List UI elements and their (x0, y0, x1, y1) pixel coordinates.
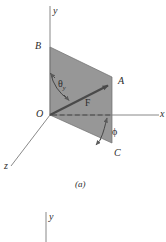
point-label-c: C (114, 148, 121, 158)
figure-caption-a: (a) (75, 180, 86, 189)
point-label-o: O (36, 109, 43, 119)
force-plane-shaded-region (50, 47, 112, 143)
theta-subscript: y (63, 84, 66, 91)
z-axis-label: z (4, 161, 8, 171)
phi-angle-label: ϕ (112, 127, 117, 137)
y-axis-label: y (53, 6, 57, 16)
x-axis-label: x (160, 109, 164, 119)
figure-canvas (0, 0, 166, 242)
point-label-a: A (118, 76, 124, 86)
force-vector-label: F (85, 99, 90, 109)
panel-b-y-axis-label: y (49, 212, 53, 222)
theta-y-angle-label: θy (58, 79, 66, 92)
point-label-b: B (35, 41, 41, 51)
force-vector-figure: y x z B O A C θy ϕ F (a) y (0, 0, 166, 242)
phi-angle-leader (96, 139, 101, 145)
z-axis-line (11, 115, 50, 166)
